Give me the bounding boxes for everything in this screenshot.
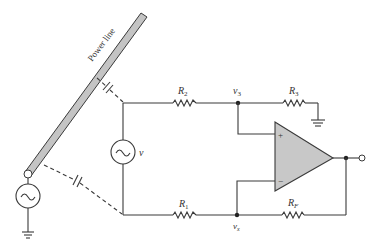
top-wire <box>123 100 283 106</box>
output-terminal <box>359 155 365 161</box>
r3-branch <box>283 100 318 120</box>
rf-label: RF <box>287 197 299 210</box>
v3-label: v3 <box>233 85 241 98</box>
ground-icon-right <box>311 120 325 126</box>
circuit-diagram: Power line v R2 v3 <box>0 0 384 248</box>
r2-label: R2 <box>177 85 188 98</box>
power-source <box>16 178 40 232</box>
ground-icon-left <box>22 232 34 238</box>
opamp-minus-label: − <box>278 176 283 186</box>
stray-capacitor-bottom <box>44 165 122 214</box>
stray-capacitor-top <box>97 78 123 102</box>
opamp-plus-label: + <box>278 130 283 140</box>
vx-label: vx <box>233 221 240 232</box>
r1-label: R1 <box>178 198 189 211</box>
node-vx <box>235 213 239 217</box>
r3-label: R3 <box>288 85 299 98</box>
opamp <box>275 122 333 191</box>
signal-source-v <box>111 103 135 215</box>
minus-input-wire <box>237 181 275 215</box>
bottom-wire <box>123 212 346 218</box>
source-v-label: v <box>139 147 144 158</box>
plus-input-wire <box>238 103 275 134</box>
